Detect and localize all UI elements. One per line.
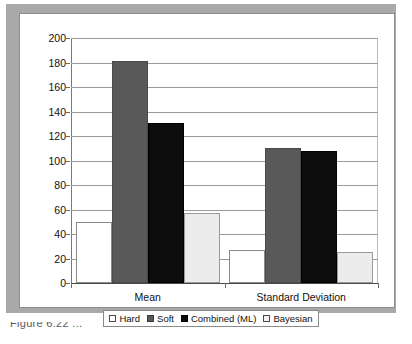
y-tick-mark-80 — [66, 185, 70, 186]
y-tick-mark-40 — [66, 234, 70, 235]
y-tick-mark-100 — [66, 161, 70, 162]
y-tick-mark-140 — [66, 112, 70, 113]
figure-page: 200180160140120100806040200 MeanStandard… — [0, 0, 412, 344]
bar-hard-mean — [76, 222, 112, 283]
y-tick-label-160: 160 — [22, 82, 66, 92]
y-tick-mark-160 — [66, 87, 70, 88]
y-tick-mark-200 — [66, 38, 70, 39]
y-tick-mark-20 — [66, 259, 70, 260]
figure-caption: Figure 6.22 ... — [10, 322, 402, 338]
scan-border: 200180160140120100806040200 MeanStandard… — [6, 4, 396, 313]
y-tick-label-100: 100 — [22, 156, 66, 166]
y-tick-label-60: 60 — [22, 205, 66, 215]
x-category-label-standard-deviation: Standard Deviation — [225, 291, 379, 303]
plot-area — [71, 38, 378, 283]
legend-swatch-combined-ml — [181, 315, 188, 322]
y-tick-mark-120 — [66, 136, 70, 137]
y-tick-mark-180 — [66, 63, 70, 64]
figure-canvas: 200180160140120100806040200 MeanStandard… — [19, 13, 395, 308]
y-tick-label-20: 20 — [22, 254, 66, 264]
caption-text: Figure 6.22 ... — [10, 322, 402, 329]
bar-bayesian-standard-deviation — [337, 252, 373, 283]
bar-combined-ml-mean — [148, 123, 184, 283]
x-category-label-mean: Mean — [71, 291, 225, 303]
bar-bayesian-mean — [184, 213, 220, 283]
y-tick-label-0: 0 — [22, 278, 66, 288]
bar-soft-standard-deviation — [265, 148, 301, 283]
legend-swatch-bayesian — [263, 315, 270, 322]
x-tick-0 — [225, 283, 226, 288]
y-tick-label-140: 140 — [22, 107, 66, 117]
y-tick-mark-60 — [66, 210, 70, 211]
bar-combined-ml-standard-deviation — [301, 151, 337, 283]
legend-swatch-soft — [147, 315, 154, 322]
y-tick-label-80: 80 — [22, 180, 66, 190]
y-axis: 200180160140120100806040200 — [20, 38, 66, 283]
y-tick-label-200: 200 — [22, 33, 66, 43]
y-tick-label-180: 180 — [22, 58, 66, 68]
x-tick-origin — [71, 283, 72, 288]
x-tick-1 — [378, 283, 379, 288]
bar-hard-standard-deviation — [229, 250, 265, 283]
y-tick-mark-0 — [66, 283, 70, 284]
y-tick-label-40: 40 — [22, 229, 66, 239]
gridline-200 — [71, 38, 378, 39]
bar-soft-mean — [112, 61, 148, 283]
legend-swatch-hard — [109, 315, 116, 322]
bar-chart: 200180160140120100806040200 MeanStandard… — [20, 14, 394, 307]
y-tick-label-120: 120 — [22, 131, 66, 141]
